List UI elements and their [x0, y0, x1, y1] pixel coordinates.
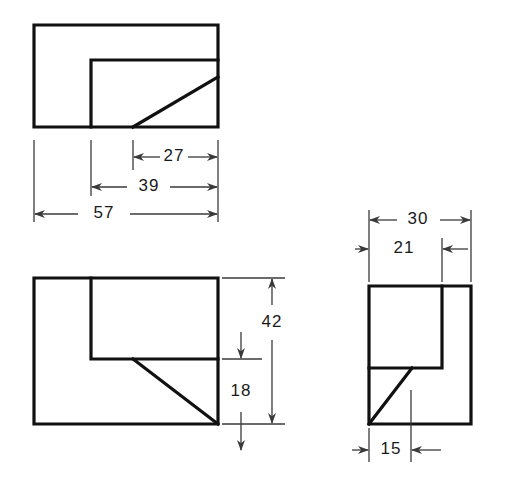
side-view-step	[369, 286, 442, 368]
dimension-15: 15	[381, 439, 402, 458]
engineering-drawing: 27 39 57 42	[0, 0, 506, 477]
front-view	[34, 278, 218, 424]
front-view-step	[91, 278, 218, 359]
dimension-18: 18	[231, 381, 252, 400]
dimension-42: 42	[262, 312, 283, 331]
dimension-27: 27	[164, 146, 185, 165]
top-view-dimensions: 27 39 57	[34, 140, 218, 222]
top-view-outline	[34, 25, 218, 127]
front-view-dimensions: 42 18	[222, 278, 285, 450]
side-view-diagonal	[369, 368, 412, 424]
front-view-diagonal	[133, 359, 218, 424]
top-view-inner-block	[91, 60, 218, 127]
drawing-canvas: 27 39 57 42	[0, 0, 506, 477]
dimension-57: 57	[94, 203, 115, 222]
dimension-21: 21	[394, 238, 415, 257]
side-view	[369, 286, 471, 424]
top-view-diagonal	[133, 77, 218, 127]
dimension-30: 30	[408, 209, 429, 228]
top-view	[34, 25, 218, 127]
dimension-39: 39	[139, 176, 160, 195]
